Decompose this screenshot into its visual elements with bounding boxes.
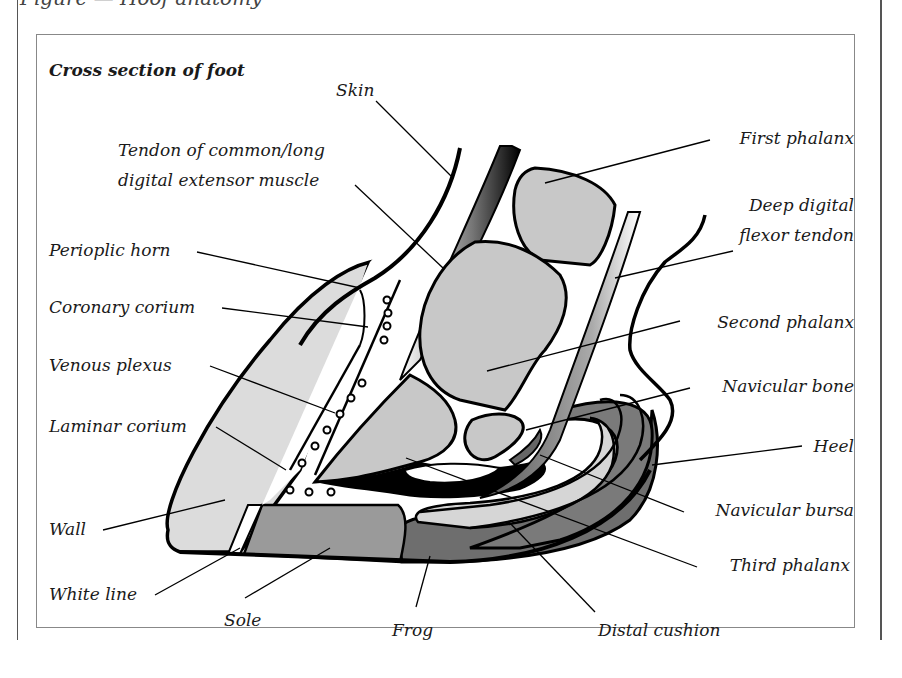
label-sole: Sole	[224, 610, 261, 630]
label-perioplic-horn: Perioplic horn	[49, 240, 170, 260]
label-extensor-tendon-line1: Tendon of common/long	[118, 140, 325, 160]
label-distal-cushion: Distal cushion	[598, 620, 720, 640]
label-wall: Wall	[49, 519, 86, 539]
label-third-phalanx: Third phalanx	[730, 555, 850, 575]
label-first-phalanx: First phalanx	[740, 128, 854, 148]
first-phalanx-bone	[514, 168, 615, 265]
label-second-phalanx: Second phalanx	[717, 312, 854, 332]
label-coronary-corium: Coronary corium	[49, 297, 195, 317]
label-laminar-corium: Laminar corium	[49, 416, 187, 436]
label-navicular-bone: Navicular bone	[722, 376, 854, 396]
hoof-cross-section-diagram	[0, 0, 902, 678]
label-extensor-tendon-line2: digital extensor muscle	[118, 170, 319, 190]
label-frog: Frog	[392, 620, 433, 640]
label-white-line: White line	[49, 584, 137, 604]
label-skin: Skin	[336, 80, 374, 100]
label-deep-flexor-line2: flexor tendon	[739, 225, 854, 245]
navicular-bone	[465, 414, 523, 460]
label-venous-plexus: Venous plexus	[49, 355, 172, 375]
label-deep-flexor-line1: Deep digital	[749, 195, 854, 215]
label-navicular-bursa: Navicular bursa	[716, 500, 854, 520]
label-heel: Heel	[814, 436, 854, 456]
